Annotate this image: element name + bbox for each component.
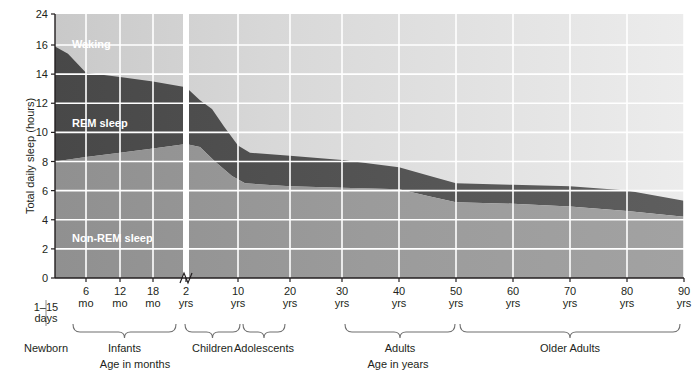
- x-tick-unit: yrs: [436, 297, 476, 309]
- y-tick-label: 16: [22, 40, 48, 50]
- newborn-day-range: 1–15days: [16, 302, 76, 324]
- x-tick-label: 50yrs: [436, 285, 476, 309]
- x-tick-value: 20: [284, 285, 296, 297]
- x-tick-unit: yrs: [379, 297, 419, 309]
- x-tick-value: 18: [147, 285, 159, 297]
- y-tick-label: 10: [22, 127, 48, 137]
- age-group-brace: [185, 324, 240, 338]
- x-tick-label: 20yrs: [270, 285, 310, 309]
- age-group-brace: [73, 324, 176, 338]
- age-group-label: Adults: [340, 342, 460, 354]
- x-tick-label: 60yrs: [493, 285, 533, 309]
- x-tick-value: 40: [393, 285, 405, 297]
- x-tick-label: 40yrs: [379, 285, 419, 309]
- y-tick-label: 0: [22, 273, 48, 283]
- y-tick-label: 6: [22, 186, 48, 196]
- x-tick-label: 70yrs: [550, 285, 590, 309]
- x-tick-unit: yrs: [607, 297, 647, 309]
- age-group-brace: [460, 324, 680, 338]
- x-tick-label: 80yrs: [607, 285, 647, 309]
- newborn-range-line2: days: [16, 313, 76, 324]
- x-tick-value: 80: [621, 285, 633, 297]
- x-tick-value: 50: [450, 285, 462, 297]
- age-group-brace: [243, 324, 285, 338]
- x-tick-unit: yrs: [550, 297, 590, 309]
- x-tick-label: 30yrs: [322, 285, 362, 309]
- x-tick-value: 10: [232, 285, 244, 297]
- x-tick-unit: yrs: [270, 297, 310, 309]
- x-tick-value: 30: [336, 285, 348, 297]
- age-group-braces: [73, 324, 680, 338]
- axis-group-name: Age in years: [328, 358, 468, 370]
- band-label: REM sleep: [72, 117, 128, 129]
- age-group-label: Older Adults: [510, 342, 630, 354]
- x-tick-value: 12: [114, 285, 126, 297]
- x-tick-value: 70: [564, 285, 576, 297]
- x-tick-unit: yrs: [322, 297, 362, 309]
- y-tick-label: 24: [22, 9, 48, 19]
- band-label: Non-REM sleep: [72, 232, 153, 244]
- x-tick-value: 60: [507, 285, 519, 297]
- axis-group-name: Age in months: [65, 358, 205, 370]
- x-tick-label: 90yrs: [664, 285, 696, 309]
- band-label: Waking: [72, 38, 111, 50]
- x-tick-unit: yrs: [166, 297, 206, 309]
- x-tick-value: 6: [83, 285, 89, 297]
- y-tick-label: 12: [22, 98, 48, 108]
- x-tick-unit: yrs: [218, 297, 258, 309]
- y-tick-label: 4: [22, 215, 48, 225]
- y-tick-label: 8: [22, 157, 48, 167]
- x-tick-label: 2yrs: [166, 285, 206, 309]
- x-tick-value: 90: [678, 285, 690, 297]
- x-axis-break-band: [183, 14, 189, 278]
- chart-plot-area: [0, 0, 696, 380]
- sleep-chart-figure: Total daily sleep (hours) 02468101214162…: [0, 0, 696, 380]
- x-tick-unit: yrs: [493, 297, 533, 309]
- x-tick-label: 10yrs: [218, 285, 258, 309]
- x-tick-unit: yrs: [664, 297, 696, 309]
- y-tick-label: 2: [22, 244, 48, 254]
- age-group-brace: [345, 324, 455, 338]
- y-tick-label: 14: [22, 69, 48, 79]
- age-group-label: Adolescents: [204, 342, 324, 354]
- x-tick-value: 2: [183, 285, 189, 297]
